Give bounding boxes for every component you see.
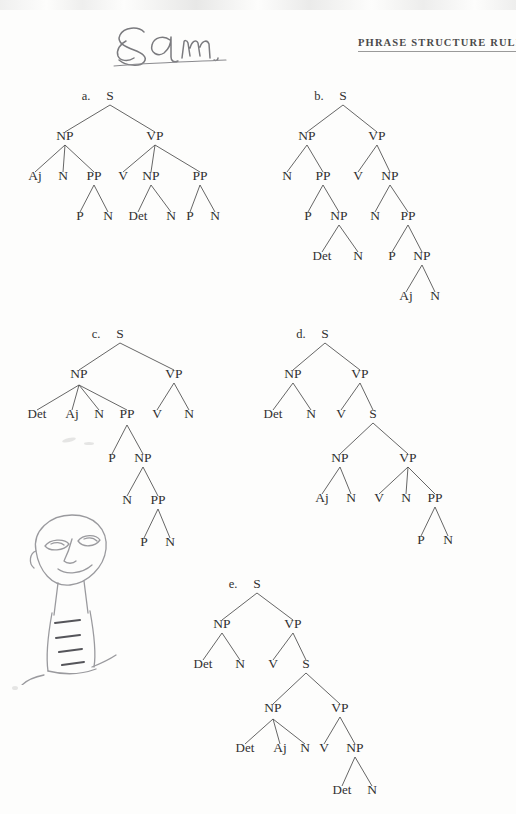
tree-node-vp: VP (399, 450, 416, 465)
tree-node-np: NP (381, 168, 398, 183)
tree-d-svg: d. SNPVPDetNVSNPVPAjNVNPPPN (265, 322, 500, 567)
tree-node-np: NP (56, 128, 73, 143)
tree-e-label: e. (229, 577, 238, 591)
tree-node-s: S (339, 88, 347, 103)
tree-node-det: Det (28, 406, 47, 421)
tree-b-label: b. (314, 89, 323, 103)
tree-node-det: Det (264, 406, 283, 421)
tree-node-pp: PP (150, 492, 165, 507)
tree-node-det: Det (194, 656, 213, 671)
tree-node-p: P (76, 208, 84, 223)
pencil-smudge (12, 686, 18, 690)
tree-node-pp: PP (86, 168, 101, 183)
tree-e-svg: e. SNPVPDetNVSNPVPDetAjNVNPDetN (205, 572, 440, 812)
tree-node-n: N (282, 168, 292, 183)
tree-c-nodes: SNPVPDetAjNPPVNPNPNPPPN (28, 326, 195, 549)
tree-a-label: a. (82, 89, 91, 103)
tree-node-aj: Aj (315, 490, 329, 505)
tree-node-pp: PP (315, 168, 330, 183)
tree-node-aj: Aj (399, 288, 413, 303)
tree-node-np: NP (346, 740, 363, 755)
tree-node-n: N (367, 782, 377, 797)
tree-node-det: Det (129, 208, 148, 223)
tree-a-nodes: SNPVPAjNPPVNPPPPNDetNPN (28, 88, 220, 223)
tree-node-p: P (140, 534, 148, 549)
tree-node-np: NP (330, 208, 347, 223)
tree-b-nodes: SNPVPNPPVNPPNPNPPDetNPNPAjN (282, 88, 440, 303)
tree-node-np: NP (298, 128, 315, 143)
syntax-tree-d: d. SNPVPDetNVSNPVPAjNVNPPPN (265, 322, 500, 567)
tree-e-nodes: SNPVPDetNVSNPVPDetAjNVNPDetN (194, 576, 378, 797)
tree-node-p: P (417, 532, 425, 547)
tree-node-p: P (388, 248, 396, 263)
tree-c-svg: c. SNPVPDetAjNPPVNPNPNPPPN (14, 322, 249, 567)
tree-node-aj: Aj (28, 168, 42, 183)
tree-node-n: N (235, 656, 245, 671)
tree-c-label: c. (92, 327, 101, 341)
tree-node-np: NP (413, 248, 430, 263)
tree-node-v: V (336, 406, 346, 421)
running-header: PHRASE STRUCTURE RULES (358, 37, 516, 52)
tree-node-np: NP (134, 450, 151, 465)
tree-node-det: Det (333, 782, 352, 797)
syntax-tree-a: a. SNPVPAjNPPVNPPPPNDetNPN (10, 84, 245, 239)
tree-node-n: N (353, 248, 363, 263)
tree-node-p: P (186, 208, 194, 223)
tree-node-n: N (306, 406, 316, 421)
tree-node-v: V (268, 656, 278, 671)
tree-node-vp: VP (165, 366, 182, 381)
tree-a-edges (35, 105, 215, 212)
tree-node-pp: PP (192, 168, 207, 183)
tree-node-p: P (108, 450, 116, 465)
tree-node-s: S (321, 326, 329, 341)
tree-node-pp: PP (427, 490, 442, 505)
tree-node-n: N (300, 740, 310, 755)
tree-node-n: N (443, 532, 453, 547)
tree-node-n: N (58, 168, 68, 183)
tree-node-n: N (210, 208, 220, 223)
tree-node-np: NP (70, 366, 87, 381)
tree-node-s: S (253, 576, 261, 591)
tree-node-n: N (94, 406, 104, 421)
tree-node-s: S (302, 656, 310, 671)
tree-node-n: N (401, 490, 411, 505)
tree-node-det: Det (236, 740, 255, 755)
worksheet-page: PHRASE STRUCTURE RULES (0, 0, 516, 814)
scan-artifact-band (0, 0, 516, 10)
tree-node-v: V (374, 490, 384, 505)
tree-node-vp: VP (284, 616, 301, 631)
tree-node-aj: Aj (65, 406, 79, 421)
tree-node-np: NP (264, 700, 281, 715)
tree-node-vp: VP (351, 366, 368, 381)
tree-node-np: NP (142, 168, 159, 183)
syntax-tree-e: e. SNPVPDetNVSNPVPDetAjNVNPDetN (205, 572, 440, 812)
tree-node-vp: VP (331, 700, 348, 715)
tree-node-pp: PP (400, 208, 415, 223)
tree-d-label: d. (296, 327, 305, 341)
tree-node-vp: VP (368, 128, 385, 143)
handwritten-signature (104, 16, 236, 72)
tree-node-s: S (106, 88, 114, 103)
tree-node-s: S (369, 406, 377, 421)
tree-node-v: V (353, 168, 363, 183)
tree-node-n: N (346, 490, 356, 505)
tree-node-aj: Aj (273, 740, 287, 755)
tree-node-np: NP (331, 450, 348, 465)
tree-node-n: N (370, 208, 380, 223)
tree-node-det: Det (313, 248, 332, 263)
tree-node-p: P (304, 208, 312, 223)
tree-node-n: N (430, 288, 440, 303)
tree-node-s: S (116, 326, 124, 341)
tree-node-v: V (319, 740, 329, 755)
header-rule (358, 51, 516, 52)
syntax-tree-c: c. SNPVPDetAjNPPVNPNPNPPPN (14, 322, 249, 567)
tree-node-n: N (184, 406, 194, 421)
tree-node-v: V (118, 168, 128, 183)
tree-node-n: N (166, 208, 176, 223)
tree-node-np: NP (284, 366, 301, 381)
tree-node-n: N (165, 534, 175, 549)
tree-a-svg: a. SNPVPAjNPPVNPPPPNDetNPN (10, 84, 245, 239)
tree-node-n: N (103, 208, 113, 223)
tree-node-np: NP (213, 616, 230, 631)
syntax-tree-b: b. SNPVPNPPVNPPNPNPPDetNPNPAjN (265, 84, 500, 319)
